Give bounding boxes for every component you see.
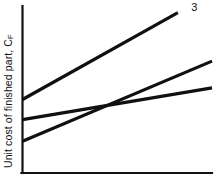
chart-figure: Unit cost of finished part, CF 123 [0, 0, 223, 182]
plot-area: 123 [0, 0, 223, 182]
data-line-2 [23, 88, 213, 120]
series-label-group: 123 [191, 1, 223, 88]
data-line-1 [23, 61, 213, 141]
series-label-3: 3 [191, 1, 197, 13]
series-group [23, 13, 213, 142]
